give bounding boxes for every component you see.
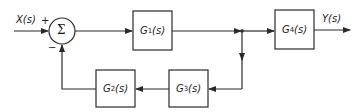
sigma-symbol: Σ	[57, 23, 65, 37]
block-name: G	[103, 83, 111, 94]
block-arg: (s)	[188, 83, 201, 94]
block-name: G	[282, 24, 290, 35]
input-label: X(s)	[16, 14, 36, 25]
block-arg: (s)	[294, 24, 307, 35]
feedback-return-line	[62, 45, 96, 89]
block-name: G	[176, 83, 184, 94]
block-g3-label: G3(s)	[169, 70, 208, 107]
block-arg: (s)	[152, 25, 165, 36]
output-label: Y(s)	[322, 13, 341, 24]
block-g4-label: G4(s)	[275, 10, 314, 49]
block-g1-label: G1(s)	[133, 11, 172, 50]
minus-sign: −	[48, 42, 56, 53]
block-name: G	[140, 25, 148, 36]
block-g2-label: G2(s)	[96, 70, 135, 107]
block-arg: (s)	[115, 83, 128, 94]
plus-sign: +	[41, 15, 49, 26]
